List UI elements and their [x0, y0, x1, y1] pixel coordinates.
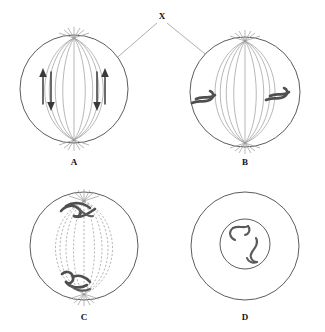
panel-label-c: C — [81, 312, 88, 322]
panel-d[interactable]: D — [191, 192, 299, 322]
panel-a[interactable]: A — [20, 27, 128, 167]
panel-c[interactable]: C — [30, 189, 138, 322]
callout-x-group: X — [112, 11, 215, 62]
diagram-canvas: X — [0, 0, 325, 332]
panel-label-a: A — [71, 157, 78, 167]
callout-x-label: X — [159, 11, 166, 21]
panel-b[interactable]: B — [190, 30, 300, 167]
cell-division-diagram: X — [0, 0, 325, 332]
leader-line-to-panel-a — [112, 23, 157, 62]
panel-label-b: B — [242, 157, 248, 167]
panel-label-d: D — [242, 312, 249, 322]
